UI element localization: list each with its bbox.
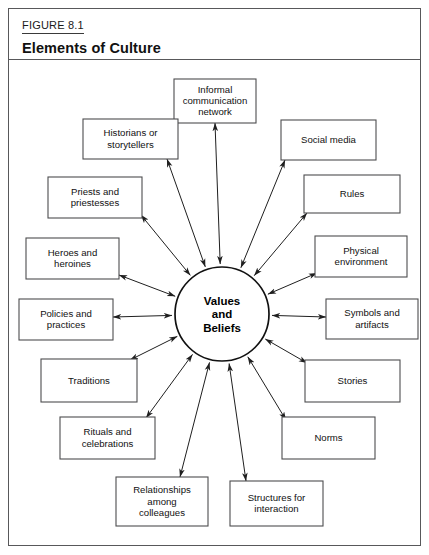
connector-arrow-structures-for-interaction (229, 364, 246, 482)
elements-of-culture-diagram: InformalcommunicationnetworkSocial media… (8, 60, 421, 546)
node-historians-or-storytellers: Historians orstorytellers (83, 119, 178, 159)
node-label-historians-or-storytellers: Historians orstorytellers (104, 127, 159, 149)
node-label-rules: Rules (340, 188, 365, 199)
node-informal-communication-network: Informalcommunicationnetwork (174, 79, 256, 123)
node-priests-and-priestesses: Priests andpriestesses (48, 177, 142, 218)
connector-arrow-heroes-and-heroines (119, 275, 175, 296)
node-label-stories: Stories (338, 375, 368, 386)
node-label-traditions: Traditions (68, 374, 110, 385)
node-relationships-among-colleagues: Relationshipsamongcolleagues (116, 477, 208, 526)
node-label-policies-and-practices: Policies andpractices (40, 307, 92, 329)
connector-arrow-relationships-among-colleagues (180, 362, 210, 477)
connector-arrow-stories (265, 339, 307, 363)
node-structures-for-interaction: Structures forinteraction (230, 481, 323, 526)
node-social-media: Social media (281, 120, 376, 160)
node-norms: Norms (282, 417, 375, 459)
node-policies-and-practices: Policies andpractices (19, 299, 113, 340)
node-label-norms: Norms (314, 432, 342, 443)
figure-title: Elements of Culture (22, 40, 421, 56)
node-label-rituals-and-celebrations: Rituals andcelebrations (82, 426, 134, 448)
node-label-structures-for-interaction: Structures forinteraction (248, 491, 306, 513)
node-traditions: Traditions (41, 359, 137, 402)
node-label-priests-and-priestesses: Priests andpriestesses (71, 185, 120, 207)
diagram-canvas: InformalcommunicationnetworkSocial media… (8, 60, 421, 546)
connector-arrow-policies-and-practices (113, 315, 172, 317)
connector-arrow-traditions (130, 336, 177, 360)
node-rules: Rules (304, 175, 400, 213)
node-symbols-and-artifacts: Symbols andartifacts (326, 299, 418, 339)
connector-arrow-social-media (241, 160, 285, 268)
node-label-heroes-and-heroines: Heroes andheroines (48, 246, 98, 268)
figure-label: FIGURE 8.1 (22, 19, 84, 34)
figure-header: FIGURE 8.1 Elements of Culture (8, 8, 421, 60)
connector-arrow-rituals-and-celebrations (146, 354, 193, 418)
connector-arrow-rules (254, 213, 307, 276)
connector-arrow-symbols-and-artifacts (272, 315, 326, 317)
center-node-layer: ValuesandBeliefs (175, 267, 269, 361)
connector-arrow-physical-environment (268, 273, 317, 294)
node-label-social-media: Social media (301, 134, 357, 145)
node-stories: Stories (305, 360, 400, 402)
figure-container: FIGURE 8.1 Elements of Culture Informalc… (0, 0, 429, 555)
node-rituals-and-celebrations: Rituals andcelebrations (60, 417, 155, 459)
connector-arrow-informal-communication-network (215, 123, 220, 264)
connector-arrow-norms (248, 357, 286, 420)
node-heroes-and-heroines: Heroes andheroines (26, 238, 119, 279)
connector-arrow-historians-or-storytellers (167, 159, 205, 267)
node-physical-environment: Physicalenvironment (315, 236, 407, 277)
connector-arrow-priests-and-priestesses (141, 215, 190, 275)
